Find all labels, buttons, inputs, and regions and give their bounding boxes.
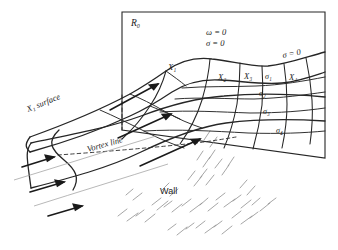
wall-label: Wall: [160, 186, 177, 196]
region-label: R₀: [130, 18, 140, 28]
x-station-label-3: X₃: [243, 71, 252, 81]
x-station-line-5: [306, 58, 312, 144]
x-station-label-4: X₄: [288, 72, 297, 82]
sigma-line-3: [160, 108, 325, 113]
x-station-line-4: [282, 64, 287, 148]
omega-condition-label: ω = 0: [206, 27, 227, 37]
upper-sheet-edges: [30, 52, 325, 152]
sigma-right-condition-label: σ = 0: [281, 46, 302, 59]
sigma-line-4: [144, 130, 325, 133]
sigma-label-3: σ₃: [263, 107, 270, 116]
dashed-vortex-line: [58, 137, 236, 155]
wall-hatching: [118, 131, 276, 235]
sigma-condition-label: σ = 0: [206, 38, 225, 48]
inflow-arrow-3: [48, 204, 82, 216]
sigma-label-2: σ₂: [259, 89, 266, 98]
x-station-line-1: [122, 71, 166, 139]
vortex-line-diagram: R₀ ω = 0 σ = 0 σ = 0 X₁ X₂ X₃ X₄ σ₁ σ₂ σ…: [0, 0, 338, 250]
interior-flow-arrows: [110, 84, 200, 166]
vortex-line-label: Vortex line: [86, 134, 124, 154]
x-station-line-3b: [253, 66, 263, 149]
x1-surface-label: X₁ surface: [24, 91, 62, 114]
x-station-label-1: X₁: [167, 62, 176, 72]
inflow-arrow-2: [30, 180, 64, 192]
sigma-label-1: σ₁: [265, 72, 272, 81]
x-station-line-3: [224, 63, 240, 148]
x-station-label-2: X₂: [217, 72, 226, 82]
sigma-streamlines: [144, 77, 325, 133]
sigma-label-4: σ₄: [276, 126, 283, 135]
